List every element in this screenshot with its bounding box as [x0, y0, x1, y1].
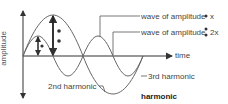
amplitude-x-arrow [38, 37, 44, 55]
leader-amp-2x [113, 32, 140, 55]
label-amplitude-2x-suffix: 2x [210, 28, 218, 37]
dot-icon [40, 44, 43, 47]
dot-icon [57, 29, 61, 33]
caption: harmonic [141, 92, 177, 101]
label-amplitude-x: wave of amplitude [141, 12, 205, 21]
label-text: wave of amplitude [141, 28, 205, 37]
label-text: wave of amplitude [141, 12, 205, 21]
amplitude-2x-arrow [53, 16, 61, 55]
dot-icon [57, 39, 61, 43]
leader-amp-x [100, 16, 140, 37]
y-axis-label: amplitude [0, 31, 8, 66]
label-amplitude-2x: wave of amplitude [141, 28, 205, 37]
label-2nd-harmonic: 2nd harmonic [48, 82, 96, 91]
label-amplitude-x-suffix: x [210, 12, 214, 21]
label-3rd-harmonic: 3rd harmonic [148, 72, 195, 81]
x-axis-label: time [175, 51, 190, 60]
